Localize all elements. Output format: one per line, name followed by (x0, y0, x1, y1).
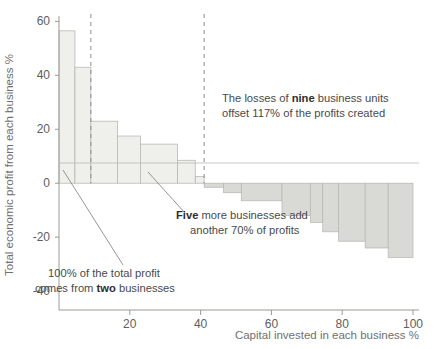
bar-unit-3[interactable] (91, 121, 118, 183)
bar-unit-10[interactable] (241, 183, 282, 201)
bar-unit-6[interactable] (178, 160, 196, 183)
bar-unit-5[interactable] (140, 144, 177, 183)
svg-text:another 70% of profits: another 70% of profits (190, 224, 300, 236)
bar-unit-9[interactable] (224, 183, 242, 192)
bar-unit-12[interactable] (310, 183, 322, 222)
chart-root: 6040200-20-40 20406080100 Total economic… (0, 0, 434, 349)
economic-profit-waterfall-chart: 6040200-20-40 20406080100 Total economic… (0, 0, 434, 349)
annotation-losses: The losses of nine business units offset… (222, 92, 389, 119)
annotation-hundred-percent: 100% of the total profit comes from two … (35, 267, 175, 294)
x-tick-label: 40 (194, 317, 208, 331)
svg-text:Five more businesses add: Five more businesses add (176, 209, 308, 221)
bar-unit-7[interactable] (195, 176, 204, 183)
annotation-five-more: Five more businesses add another 70% of … (176, 209, 308, 236)
annotation-leader-lines (63, 170, 185, 265)
x-tick-layer: 20406080100 (123, 310, 423, 331)
y-tick-layer: 6040200-20-40 (33, 14, 59, 298)
svg-text:100% of the total profit: 100% of the total profit (48, 267, 161, 279)
bar-unit-14[interactable] (339, 183, 366, 241)
leader-line-hundred-percent (63, 170, 123, 265)
svg-text:offset 117% of the profits cre: offset 117% of the profits created (222, 107, 385, 119)
svg-text:The losses of nine business un: The losses of nine business units (222, 92, 389, 104)
svg-text:comes from two businesses: comes from two businesses (35, 282, 175, 294)
axes-layer (59, 16, 419, 310)
bar-unit-13[interactable] (323, 183, 339, 232)
y-tick-label: 20 (37, 122, 51, 136)
bar-unit-16[interactable] (388, 183, 413, 257)
y-tick-label: -20 (33, 230, 51, 244)
bar-unit-15[interactable] (365, 183, 388, 248)
x-axis-title: Capital invested in each business % (235, 329, 419, 341)
bar-unit-1[interactable] (59, 31, 75, 183)
x-tick-label: 20 (123, 317, 137, 331)
y-tick-label: 40 (37, 68, 51, 82)
y-axis-title: Total economic profit from each business… (3, 54, 15, 276)
bar-unit-8[interactable] (204, 183, 223, 187)
y-tick-label: 0 (43, 176, 50, 190)
y-tick-label: 60 (37, 14, 51, 28)
bar-unit-4[interactable] (117, 136, 140, 183)
bar-unit-2[interactable] (75, 67, 91, 183)
